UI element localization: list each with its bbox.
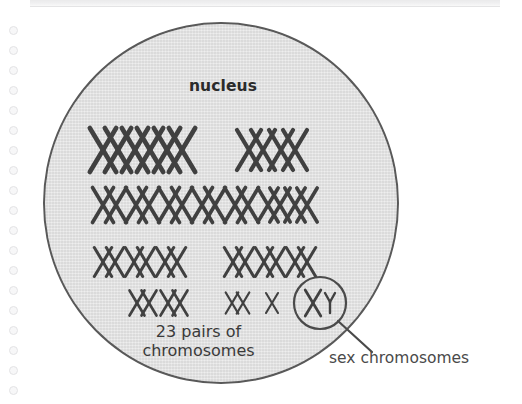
binding-hole <box>9 226 18 235</box>
binding-hole <box>9 46 18 55</box>
binding-hole <box>9 386 18 395</box>
caption-line-1: 23 pairs of <box>111 322 286 341</box>
binding-hole <box>9 26 18 35</box>
binding-hole <box>9 346 18 355</box>
caption-line-2: chromosomes <box>111 341 286 360</box>
chromosome-count-caption: 23 pairs of chromosomes <box>111 322 286 360</box>
binding-hole <box>9 206 18 215</box>
binding-hole <box>9 326 18 335</box>
figure-canvas: nucleus 23 pairs of chromosomes sex chro… <box>0 0 522 404</box>
sex-chromosomes-label: sex chromosomes <box>329 349 469 367</box>
binding-hole <box>9 146 18 155</box>
binding-hole <box>9 126 18 135</box>
nucleus-label: nucleus <box>45 77 401 95</box>
binding-hole <box>9 306 18 315</box>
binding-hole <box>9 166 18 175</box>
spiral-binding-holes <box>6 16 22 396</box>
binding-hole <box>9 286 18 295</box>
binding-hole <box>9 66 18 75</box>
binding-hole <box>9 186 18 195</box>
binding-hole <box>9 266 18 275</box>
binding-hole <box>9 106 18 115</box>
binding-hole <box>9 366 18 375</box>
scan-edge-line <box>30 6 500 7</box>
binding-hole <box>9 246 18 255</box>
binding-hole <box>9 86 18 95</box>
